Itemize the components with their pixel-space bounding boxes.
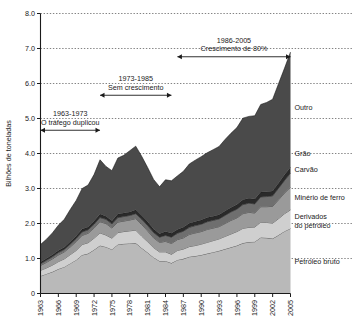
y-tick-label-0: 0 (31, 289, 35, 298)
y-axis-title: Bilhões de toneladas (4, 120, 13, 187)
series-label-gr-o: Grão (295, 149, 311, 158)
y-tick-label-1.0: 1.0 (25, 254, 35, 263)
y-tick-label-7.0: 7.0 (25, 44, 35, 53)
x-tick-label-1981: 1981 (143, 300, 152, 316)
x-tick-label-1978: 1978 (125, 300, 134, 316)
x-tick-label-1984: 1984 (161, 300, 170, 316)
chart-canvas: 01.02.03.04.05.06.07.08.0196319661969197… (0, 0, 354, 336)
y-tick-label-3.0: 3.0 (25, 184, 35, 193)
x-tick-label-1966: 1966 (54, 300, 63, 316)
series-label-petr-leo-bruto: Petróleo bruto (295, 257, 340, 266)
x-tick-label-1990: 1990 (197, 300, 206, 316)
series-label-do-petr-leo: do petróleo (295, 221, 331, 230)
annot-1963-1973-arrow (41, 128, 101, 133)
annot-1973-1985-line2: Sem crescimento (108, 83, 164, 92)
x-tick-label-1969: 1969 (72, 300, 81, 316)
annot-1986-2005-arrow (177, 54, 290, 59)
x-tick-label-1993: 1993 (215, 300, 224, 316)
annot-1963-1973-line2: O tráfego duplicou (41, 118, 100, 127)
x-tick-label-2002: 2002 (268, 300, 277, 316)
x-tick-label-1972: 1972 (90, 300, 99, 316)
x-tick-label-2005: 2005 (286, 300, 295, 316)
x-tick-label-1996: 1996 (233, 300, 242, 316)
y-tick-label-4.0: 4.0 (25, 149, 35, 158)
x-tick-label-1987: 1987 (179, 300, 188, 316)
series-label-min-rio-de-ferro: Minério de ferro (295, 193, 345, 202)
y-tick-label-2.0: 2.0 (25, 219, 35, 228)
x-tick-label-1999: 1999 (250, 300, 259, 316)
y-tick-label-8.0: 8.0 (25, 9, 35, 18)
y-tick-label-5.0: 5.0 (25, 114, 35, 123)
annot-1986-2005-line2: Crescimento de 80% (201, 44, 268, 53)
x-tick-label-1975: 1975 (108, 300, 117, 316)
series-label-carv-o: Carvão (295, 165, 318, 174)
series-label-outro: Outro (295, 103, 313, 112)
series-label-derivados: Derivados (295, 212, 328, 221)
annot-1973-1985-arrow (100, 93, 171, 98)
x-tick-label-1963: 1963 (36, 300, 45, 316)
stacked-area-chart: 01.02.03.04.05.06.07.08.0196319661969197… (0, 0, 354, 336)
y-tick-label-6.0: 6.0 (25, 79, 35, 88)
